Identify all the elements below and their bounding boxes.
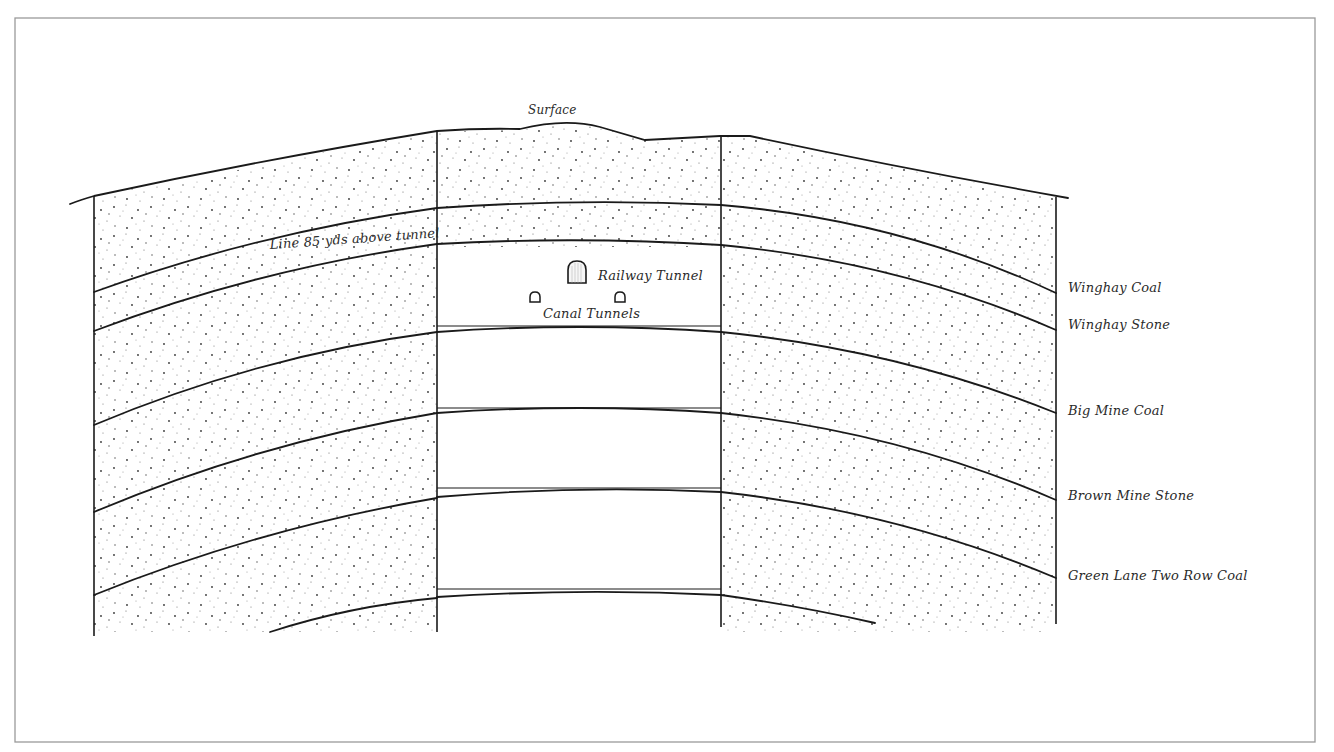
stratum-label-green-lane-two-row-coal: Green Lane Two Row Coal	[1068, 568, 1248, 583]
canal-tunnel-icon-right	[615, 292, 625, 302]
canal-tunnels-label: Canal Tunnels	[543, 306, 640, 321]
stratum-label-big-mine-coal: Big Mine Coal	[1067, 403, 1164, 418]
left-column-stipple	[94, 130, 438, 632]
stratum-label-winghay-coal: Winghay Coal	[1068, 280, 1162, 295]
railway-tunnel-label: Railway Tunnel	[597, 268, 703, 283]
cross-section-diagram: Surface Line 85 yds above tunnel Railway…	[0, 0, 1334, 752]
surface-label: Surface	[528, 103, 577, 117]
canal-tunnel-icon-left	[530, 292, 540, 302]
railway-tunnel-icon	[568, 261, 586, 283]
stratum-label-brown-mine-stone: Brown Mine Stone	[1067, 488, 1194, 503]
right-column-stipple	[722, 130, 1058, 632]
stratum-label-winghay-stone: Winghay Stone	[1068, 317, 1170, 332]
